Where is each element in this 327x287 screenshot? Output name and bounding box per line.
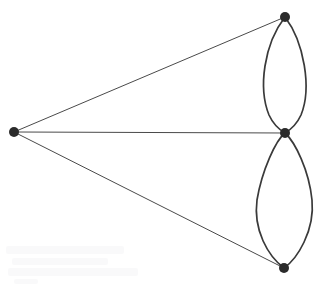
edge-left-to-middle [14,132,285,133]
vertex-left [9,127,19,137]
edge-group-straight [14,17,285,268]
edge-top-to-middle-left-arc [264,17,285,133]
edge-middle-to-bottom-right-arc [284,133,312,268]
vertex-group [9,12,290,273]
edge-top-to-middle-right-arc [285,17,306,133]
vertex-middle [280,128,290,138]
edge-middle-to-bottom-left-arc [256,133,285,268]
figure-canvas [0,0,327,287]
edge-group-curved-upper-lens [264,17,306,133]
vertex-top [280,12,290,22]
edge-group-curved-lower-lens [256,133,312,268]
graph-diagram [0,0,327,287]
edge-left-to-bottom [14,132,284,268]
vertex-bottom [279,263,289,273]
edge-left-to-top [14,17,285,132]
